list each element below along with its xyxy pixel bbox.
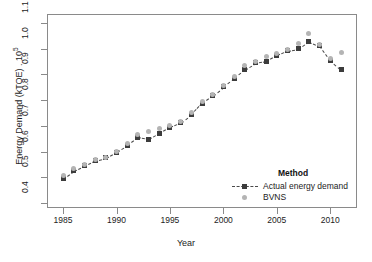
x-tick-label: 2005 [257, 216, 297, 225]
y-tick-mark [41, 126, 47, 127]
legend-label-actual: Actual energy demand [258, 181, 348, 192]
y-tick-mark [41, 100, 47, 101]
data-point [339, 50, 344, 55]
x-tick-mark [330, 208, 331, 214]
data-point [103, 155, 108, 160]
legend: Method Actual energy demand BVNS [232, 168, 354, 203]
data-point [296, 41, 301, 46]
data-point [306, 39, 311, 44]
x-tick-label: 1985 [43, 216, 83, 225]
y-tick-mark [41, 152, 47, 153]
data-point [296, 46, 301, 51]
data-point [114, 149, 119, 154]
x-tick-mark [170, 208, 171, 214]
x-tick-mark [223, 208, 224, 214]
data-point [61, 173, 66, 178]
data-point [93, 157, 98, 162]
data-point [242, 67, 247, 72]
legend-title: Method [232, 168, 354, 178]
y-tick-mark [41, 177, 47, 178]
data-point [232, 74, 237, 79]
legend-label-bvns: BVNS [258, 192, 286, 203]
x-axis-title: Year [0, 238, 372, 248]
data-point [285, 47, 290, 52]
data-point [253, 59, 258, 64]
data-point [135, 132, 140, 137]
data-point [125, 141, 130, 146]
legend-marker-square-icon [232, 181, 258, 192]
data-point [339, 67, 344, 72]
x-tick-label: 2010 [310, 216, 350, 225]
y-tick-mark [41, 203, 47, 204]
data-point [146, 129, 151, 134]
legend-item-actual[interactable]: Actual energy demand [232, 181, 354, 192]
x-tick-label: 1990 [97, 216, 137, 225]
x-tick-mark [277, 208, 278, 214]
data-point [317, 42, 322, 47]
energy-demand-chart: 0.40.50.60.70.80.91.01.1 198519901995200… [0, 0, 372, 262]
y-axis-title: Energy Demand (kTOE) . 105 [12, 11, 24, 201]
x-tick-label: 2000 [203, 216, 243, 225]
x-tick-mark [117, 208, 118, 214]
data-point [328, 56, 333, 61]
legend-marker-circle-icon [232, 192, 258, 203]
data-point [178, 119, 183, 124]
y-tick-mark [41, 74, 47, 75]
data-point [189, 110, 194, 115]
y-tick-mark [41, 49, 47, 50]
y-tick-mark [41, 23, 47, 24]
x-tick-mark [63, 208, 64, 214]
x-tick-label: 1995 [150, 216, 190, 225]
data-point [146, 137, 151, 142]
data-point [157, 131, 162, 136]
data-point [200, 99, 205, 104]
y-axis-title-exponent: 5 [12, 47, 19, 51]
legend-item-bvns[interactable]: BVNS [232, 192, 354, 203]
data-point [157, 126, 162, 131]
data-point [264, 59, 269, 64]
data-point [221, 83, 226, 88]
y-axis-title-text: Energy Demand (kTOE) . 10 [14, 51, 24, 165]
